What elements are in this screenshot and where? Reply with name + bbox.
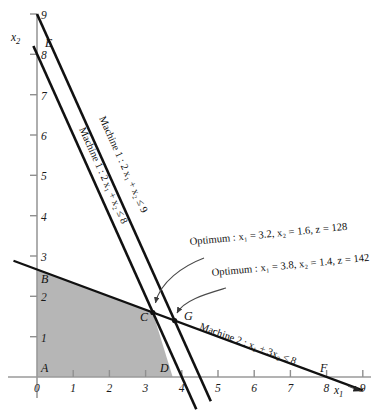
optimum-annotation-G: Optimum : x₁ = 3.8, x₂ = 1.4, z = 142 xyxy=(211,252,370,278)
svg-text:x1: x1 xyxy=(333,384,343,399)
y-tick-label-9: 9 xyxy=(41,9,47,21)
x-tick-label-7: 7 xyxy=(287,382,294,394)
y-axis-name: x2 xyxy=(10,31,20,46)
svg-text:Optimum : x₁ = 3.2, x₂ = 1.6,: Optimum : x₁ = 3.2, x₂ = 1.6, z = 128 xyxy=(189,221,348,247)
vertex-label-A: A xyxy=(40,361,49,375)
svg-text:Machine 1 : 2 x₁ + x₂ ≤ 8: Machine 1 : 2 x₁ + x₂ ≤ 8 xyxy=(77,125,130,225)
svg-text:Machine 2 : x₁ + 3x₂ ≤ 8: Machine 2 : x₁ + 3x₂ ≤ 8 xyxy=(198,321,298,367)
vertex-label-E: E xyxy=(44,36,53,50)
x-tick-labels: 0 1 2 3 4 5 6 7 8 9 xyxy=(34,382,366,394)
y-tick-label-6: 6 xyxy=(41,130,47,142)
feasible-region xyxy=(37,270,173,378)
vertex-label-G: G xyxy=(184,309,193,323)
svg-text:x2: x2 xyxy=(10,31,20,46)
vertex-label-B: B xyxy=(41,272,49,286)
vertex-label-F: F xyxy=(319,361,328,375)
y-tick-label-5: 5 xyxy=(41,170,47,182)
vertex-marker-G xyxy=(172,318,177,323)
x-tick-label-0: 0 xyxy=(34,382,40,394)
x-tick-label-2: 2 xyxy=(106,382,112,394)
svg-text:Optimum : x₁ = 3.8, x₂ = 1.4,: Optimum : x₁ = 3.8, x₂ = 1.4, z = 142 xyxy=(211,252,370,278)
vertex-marker-C xyxy=(150,310,155,315)
y-tick-label-3: 3 xyxy=(40,251,47,263)
y-tick-label-7: 7 xyxy=(41,90,48,102)
x-tick-label-6: 6 xyxy=(251,382,257,394)
optimum-annotation-C: Optimum : x₁ = 3.2, x₂ = 1.6, z = 128 xyxy=(189,221,348,247)
lp-graph-figure: 9 8 7 6 5 4 3 2 1 0 1 2 3 4 5 6 7 8 9 x2… xyxy=(0,0,384,412)
vertex-label-C: C xyxy=(140,310,149,324)
y-tick-label-1: 1 xyxy=(41,332,47,344)
machine2-label: Machine 2 : x₁ + 3x₂ ≤ 8 xyxy=(198,321,298,367)
machine1-8-label: Machine 1 : 2 x₁ + x₂ ≤ 8 xyxy=(77,125,130,225)
y-tick-label-2: 2 xyxy=(41,291,47,303)
y-axis-ticks xyxy=(30,14,37,337)
x-tick-label-3: 3 xyxy=(142,382,149,394)
x-tick-label-9: 9 xyxy=(360,382,366,394)
x-tick-label-1: 1 xyxy=(70,382,76,394)
x-tick-label-5: 5 xyxy=(215,382,221,394)
y-tick-label-4: 4 xyxy=(41,211,47,223)
x-tick-label-4: 4 xyxy=(179,382,185,394)
vertex-label-D: D xyxy=(159,361,169,375)
x-axis-name: x1 xyxy=(333,384,343,399)
x-tick-label-8: 8 xyxy=(324,382,330,394)
y-tick-label-8: 8 xyxy=(41,49,47,61)
